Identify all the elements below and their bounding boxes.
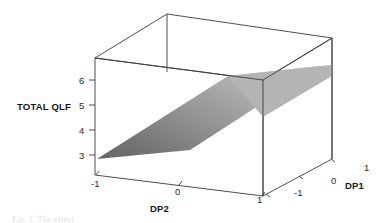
box-edge-top-front-left <box>95 58 263 80</box>
z-tick-1 <box>331 159 335 162</box>
x-tick-label-0: 0 <box>175 186 180 197</box>
y-axis-ticks <box>89 80 95 155</box>
z-axis-title: DP1 <box>345 180 364 191</box>
z-tick-0 <box>299 176 303 179</box>
y-tick-label-3: 3 <box>79 150 84 161</box>
x-axis-ticks <box>96 171 265 196</box>
z-tick-label-0: 0 <box>331 175 336 186</box>
x-tick-0 <box>179 181 182 185</box>
z-tick-minus1 <box>266 194 270 197</box>
x-axis-title: DP2 <box>150 203 169 214</box>
y-axis-title: TOTAL QLF <box>17 101 71 112</box>
y-tick-label-5: 5 <box>79 100 84 111</box>
caption-fragment: Fig. 1. The effect <box>12 214 74 223</box>
y-tick-label-6: 6 <box>79 75 84 86</box>
response-surface <box>97 65 332 163</box>
x-tick-label-1: 1 <box>257 194 262 205</box>
y-tick-label-4: 4 <box>79 125 84 136</box>
figure-canvas: TOTAL QLF DP2 DP1 6543-101-101 Fig. 1. T… <box>0 0 384 223</box>
x-tick-minus1 <box>96 171 99 175</box>
x-tick-label-minus1: -1 <box>91 178 99 189</box>
z-tick-label-minus1: -1 <box>294 187 302 198</box>
z-tick-label-1: 1 <box>364 162 369 173</box>
